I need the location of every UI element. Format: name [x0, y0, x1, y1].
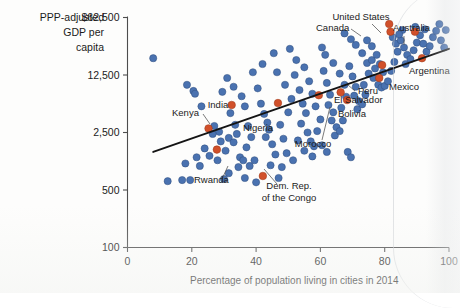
scatter-point: [257, 100, 264, 107]
scatter-point: [273, 69, 280, 76]
point-annotation-label: Mexico: [389, 81, 419, 92]
scatter-point: [336, 70, 343, 77]
scatter-point: [410, 47, 417, 54]
scatter-point: [363, 37, 370, 44]
scatter-point: [241, 174, 248, 181]
scatter-point: [281, 81, 288, 88]
x-axis-tick-label: 100: [440, 255, 458, 267]
y-axis-tick-label: 100: [102, 241, 120, 253]
scatter-point-highlighted: [375, 74, 383, 82]
scatter-point: [182, 160, 189, 167]
scatter-point-highlighted: [228, 101, 236, 109]
scatter-point: [253, 179, 260, 186]
scatter-point: [285, 109, 292, 116]
scatter-point: [436, 20, 443, 27]
scatter-point: [296, 86, 303, 93]
scatter-point: [394, 48, 401, 55]
point-annotation-label: Morocco: [295, 138, 331, 149]
scatter-point: [272, 151, 279, 158]
x-axis-tick-label: 80: [379, 255, 391, 267]
scatter-point: [280, 135, 287, 142]
scatter-point: [413, 39, 420, 46]
scatter-point: [336, 128, 343, 135]
scatter-point: [442, 26, 449, 33]
scatter-point: [217, 138, 224, 145]
scatter-point: [191, 90, 198, 97]
scatter-point: [320, 67, 327, 74]
scatter-point: [347, 36, 354, 43]
point-labels-layer: United StatesCanadaAustraliaArgentinaMex…: [172, 11, 450, 203]
scatter-point: [219, 88, 226, 95]
scatter-point: [233, 130, 240, 137]
trendline-layer: [153, 49, 449, 152]
point-annotation-label: Australia: [393, 22, 431, 33]
scatter-point-highlighted: [274, 99, 282, 107]
scatter-point: [437, 37, 444, 44]
point-annotation-label: Kenya: [172, 107, 200, 118]
scatter-point: [433, 27, 440, 34]
scatter-point: [267, 162, 274, 169]
scatter-point: [193, 154, 200, 161]
point-annotation-label: Nigeria: [243, 122, 274, 133]
scatter-point: [359, 50, 366, 57]
scatter-point: [293, 56, 300, 63]
scatter-point: [230, 83, 237, 90]
scatter-point: [241, 103, 248, 110]
scatter-point-highlighted: [259, 172, 267, 180]
scatter-point: [323, 79, 330, 86]
scatter-point: [349, 73, 356, 80]
point-annotation-label: Dem. Rep.: [266, 180, 311, 191]
scatter-point: [323, 148, 330, 155]
point-annotation-label: India: [208, 99, 229, 110]
scatter-point: [249, 69, 256, 76]
x-axis-tick-label: 40: [250, 255, 262, 267]
scatter-point: [420, 40, 427, 47]
scatter-point: [330, 109, 337, 116]
scatter-point: [330, 59, 337, 66]
scatter-point: [283, 150, 290, 157]
scatter-point: [277, 121, 284, 128]
point-annotation-label: of the Congo: [262, 192, 316, 203]
scatter-point: [309, 153, 316, 160]
scatter-point: [352, 41, 359, 48]
x-axis-tick-label: 20: [186, 255, 198, 267]
y-axis-tick-label: 12,500: [87, 69, 119, 81]
y-axis-tick-label: 500: [102, 184, 120, 196]
scatter-point: [325, 101, 332, 108]
y-axis-tick-label: 2,500: [93, 126, 119, 138]
scatter-point: [270, 50, 277, 57]
scatter-point: [314, 128, 321, 135]
scatter-point: [214, 157, 221, 164]
scatter-point: [301, 64, 308, 71]
scatter-point: [196, 162, 203, 169]
scatter-point: [227, 110, 234, 117]
x-axis-tick-label: 0: [125, 255, 131, 267]
scatter-point: [368, 43, 375, 50]
point-annotation-label: Argentina: [409, 65, 450, 76]
scatter-point-highlighted: [213, 146, 221, 154]
y-axis-title-line: capita: [76, 41, 104, 53]
scatter-point: [243, 144, 250, 151]
annotation-leader-line: [351, 29, 361, 36]
scatter-point: [246, 162, 253, 169]
scatter-point: [289, 157, 296, 164]
scatter-point: [328, 117, 335, 124]
scatter-point: [391, 58, 398, 65]
point-annotation-label: United States: [332, 11, 389, 22]
scatter-point: [322, 51, 329, 58]
scatter-point: [318, 44, 325, 51]
annotation-leader-line: [203, 114, 210, 124]
scatter-point: [230, 139, 237, 146]
scatter-point: [238, 93, 245, 100]
scatter-point: [346, 63, 353, 70]
annotation-leader-line: [322, 107, 330, 140]
scatter-point: [347, 154, 354, 161]
scatter-point: [222, 147, 229, 154]
scatter-point: [302, 110, 309, 117]
scatter-point: [164, 178, 171, 185]
scatter-point: [262, 133, 269, 140]
scatter-point: [206, 152, 213, 159]
scatter-point: [298, 120, 305, 127]
